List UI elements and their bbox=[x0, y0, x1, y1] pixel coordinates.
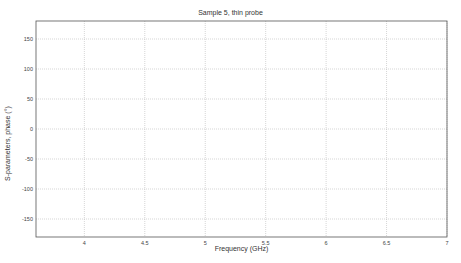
plot-frame bbox=[36, 21, 447, 237]
y-tick-label: -50 bbox=[25, 156, 33, 162]
y-tick-label: 100 bbox=[24, 66, 33, 72]
axis-ticks: 44.555.566.57150100500-50-100-150 bbox=[22, 36, 449, 246]
y-tick-label: -100 bbox=[22, 186, 33, 192]
y-tick-label: 50 bbox=[27, 96, 33, 102]
phase-plot: 44.555.566.57150100500-50-100-150 bbox=[0, 0, 461, 263]
y-tick-label: -150 bbox=[22, 216, 33, 222]
x-axis-label: Frequency (GHz) bbox=[0, 245, 461, 252]
y-tick-label: 150 bbox=[24, 36, 33, 42]
y-tick-label: 0 bbox=[30, 126, 33, 132]
grid-lines bbox=[36, 21, 447, 237]
y-axis-label: S-parameters, phase (°) bbox=[4, 106, 11, 181]
